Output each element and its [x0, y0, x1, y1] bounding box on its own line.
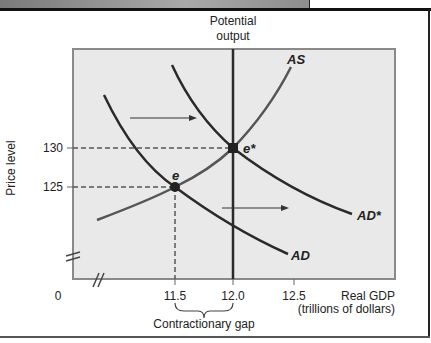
y-axis-label: Price level — [4, 140, 18, 195]
x-axis-label-2: (trillions of dollars) — [298, 302, 395, 316]
x-tick-12-0: 12.0 — [221, 289, 245, 303]
e-label: e — [172, 168, 179, 183]
potential-label-2: output — [216, 29, 250, 43]
ad-star-label: AD* — [356, 208, 382, 223]
e-star-label: e* — [243, 141, 256, 156]
point-e-star — [228, 143, 238, 153]
gap-brace — [175, 303, 233, 318]
x-tick-0: 0 — [55, 289, 62, 303]
x-tick-12-5: 12.5 — [282, 289, 306, 303]
chart: Potential output Price level 130 125 0 1… — [0, 0, 431, 343]
x-tick-11-5: 11.5 — [164, 289, 187, 303]
gap-label: Contractionary gap — [153, 317, 255, 331]
y-tick-125: 125 — [43, 180, 63, 194]
x-axis-label-1: Real GDP — [341, 289, 395, 303]
ad-label: AD — [290, 248, 310, 263]
as-label: AS — [286, 52, 305, 67]
potential-label-1: Potential — [210, 14, 257, 28]
point-e — [170, 182, 180, 192]
y-tick-130: 130 — [43, 141, 63, 155]
